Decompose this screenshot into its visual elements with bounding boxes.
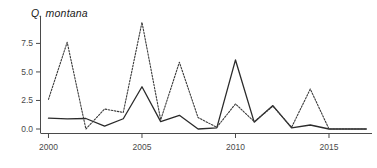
y-tick-label: 2.5 bbox=[21, 95, 33, 105]
x-tick-label: 2015 bbox=[320, 142, 339, 152]
y-tick-label: 7.5 bbox=[21, 38, 33, 48]
series-line-dashed bbox=[48, 22, 366, 129]
x-tick-label: 2005 bbox=[133, 142, 152, 152]
y-tick-label: 0.0 bbox=[21, 124, 33, 134]
series-line-solid bbox=[48, 60, 366, 129]
data-series-group bbox=[48, 22, 366, 129]
y-tick-label: 5.0 bbox=[21, 67, 33, 77]
x-tick-marks: 2000200520102015 bbox=[39, 134, 339, 153]
chart-container: Q. montana 0.02.55.07.5 2000200520102015 bbox=[0, 0, 377, 168]
line-chart-plot: 0.02.55.07.5 2000200520102015 bbox=[0, 0, 377, 168]
y-tick-marks: 0.02.55.07.5 bbox=[21, 38, 40, 134]
x-tick-label: 2000 bbox=[39, 142, 58, 152]
x-tick-label: 2010 bbox=[226, 142, 245, 152]
